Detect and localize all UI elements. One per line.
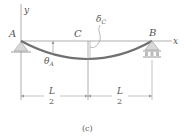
beam-deflection-diagram: y x A C B θA δC L 2 L 2 (c) — [0, 0, 184, 136]
left-span-denominator: 2 — [49, 97, 54, 106]
delta-c-leader — [90, 25, 100, 48]
support-b-label: B — [148, 27, 156, 38]
theta-a-label: θA — [44, 56, 54, 67]
arrow-head-icon — [52, 41, 55, 44]
x-axis-label: x — [173, 36, 178, 46]
point-c-label: C — [74, 28, 82, 39]
figure-caption: (c) — [82, 124, 93, 133]
right-span-denominator: 2 — [117, 97, 122, 106]
deflected-beam-curve — [21, 41, 152, 59]
y-axis-label: y — [23, 5, 30, 15]
delta-c-label: δC — [96, 14, 106, 25]
right-span-numerator: L — [116, 86, 123, 96]
support-a-label: A — [8, 28, 16, 39]
left-span-numerator: L — [48, 86, 55, 96]
